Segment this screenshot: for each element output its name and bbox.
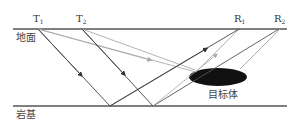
label-bedrock: 岩基	[16, 110, 36, 120]
ray-t2-target-down	[82, 29, 195, 70]
label-r2: R2	[274, 14, 285, 25]
label-ground: 地面	[16, 33, 36, 43]
label-t1: T1	[33, 14, 44, 25]
label-t2: T2	[76, 14, 87, 25]
seismic-diagram	[0, 0, 299, 128]
label-r1: R1	[234, 14, 245, 25]
label-target: 目标体	[208, 90, 238, 100]
ray-t1-arrow	[38, 29, 81, 75]
